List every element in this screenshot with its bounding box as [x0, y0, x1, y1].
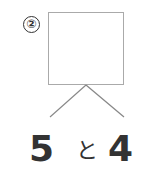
conjunction-text: と: [76, 135, 98, 167]
answer-box[interactable]: [48, 12, 124, 85]
right-part-number: 4: [108, 127, 133, 171]
right-branch-line: [86, 85, 124, 117]
parts-row: 5 と 4: [0, 127, 152, 171]
left-branch-line: [50, 85, 86, 117]
left-part-number: 5: [29, 127, 54, 171]
problem-number-badge: ②: [23, 16, 40, 33]
number-bond-problem: ② 5 と 4: [0, 0, 152, 180]
